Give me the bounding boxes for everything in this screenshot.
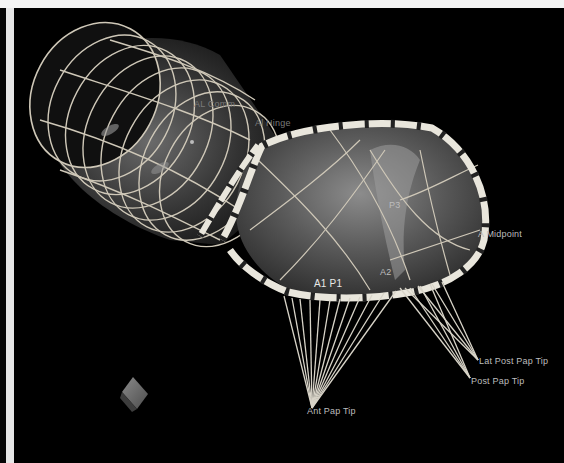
top-frame-band	[0, 0, 564, 8]
label-ant-pap-tip: Ant Pap Tip	[307, 406, 356, 416]
leaflet-surface	[236, 125, 484, 297]
orientation-cube-icon	[120, 377, 148, 412]
label-a1-p1: A1 P1	[314, 278, 342, 289]
viewport-splitter[interactable]	[6, 8, 14, 463]
label-a2: A2	[380, 267, 391, 277]
chordae-tendineae	[284, 282, 478, 408]
label-al-comm: AL Comm	[194, 99, 235, 109]
3d-viewport[interactable]: AL Comm Al Hinge P3 A Midpoint A1 P1 A2 …	[14, 8, 564, 463]
label-al-hinge: Al Hinge	[255, 118, 291, 128]
label-post-pap-tip: Post Pap Tip	[471, 376, 524, 386]
label-lat-post-pap-tip: Lat Post Pap Tip	[479, 356, 548, 366]
label-p3: P3	[389, 200, 400, 210]
label-a-midpoint: A Midpoint	[478, 229, 522, 239]
